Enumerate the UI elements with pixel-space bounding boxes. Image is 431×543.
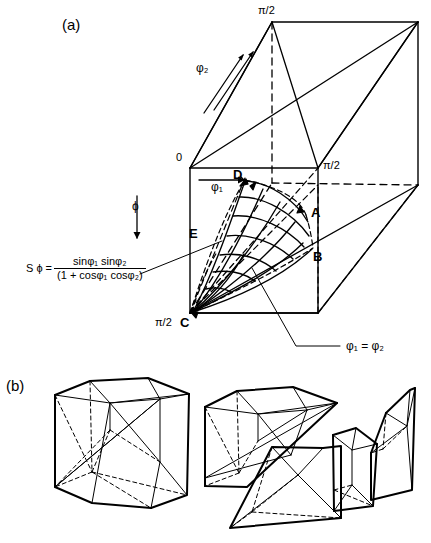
tick-label-origin: 0 <box>176 152 182 163</box>
surface-mesh-u-curves <box>193 181 312 312</box>
panel-label-a: (a) <box>62 17 80 32</box>
equation-fraction: sinφ₁ sinφ₂(1 + cosφ₁ cosφ₂) <box>54 256 146 281</box>
phi2-axis-arrow <box>204 51 254 113</box>
equation-numerator: sinφ₁ sinφ₂ <box>54 256 146 268</box>
panel-a-diagram <box>134 22 419 346</box>
axis-label-phi1: φ₁ <box>211 181 223 193</box>
axis-label-phi: ϕ <box>132 200 139 212</box>
point-label-C: C <box>180 316 189 329</box>
point-label-D: D <box>233 168 242 181</box>
tick-label-right-phi1: π/2 <box>323 160 340 171</box>
surface-equation: S ϕ =sinφ₁ sinφ₂(1 + cosφ₁ cosφ₂) <box>26 256 146 281</box>
tick-label-bottom-phi: π/2 <box>155 317 172 328</box>
equation-lhs: S ϕ = <box>26 263 54 274</box>
panel-b-assembled-cube <box>55 378 189 508</box>
diagonal-annotation-label: φ₁ = φ₂ <box>346 340 384 352</box>
tick-label-top-phi2: π/2 <box>258 5 275 16</box>
equation-denominator: (1 + cosφ₁ cosφ₂) <box>54 268 146 281</box>
point-label-A: A <box>311 206 320 219</box>
panel-label-b: (b) <box>6 378 24 393</box>
axis-label-phi2: φ₂ <box>196 62 208 74</box>
panel-b-exploded-shell <box>205 387 337 487</box>
point-label-E: E <box>189 227 198 240</box>
diagonal-leader-line <box>252 268 340 346</box>
point-label-B: B <box>313 250 322 263</box>
equation-leader-line <box>140 241 222 274</box>
body-diagonals-solid <box>190 185 418 313</box>
